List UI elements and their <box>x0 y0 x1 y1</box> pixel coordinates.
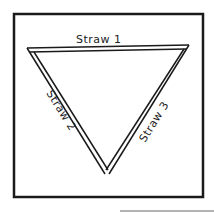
straw-triangle-diagram: Straw 1 Straw 2 Straw 3 <box>0 0 214 213</box>
straw-1-label: Straw 1 <box>76 33 122 46</box>
straw-3 <box>106 45 189 174</box>
straw-1 <box>27 45 189 52</box>
